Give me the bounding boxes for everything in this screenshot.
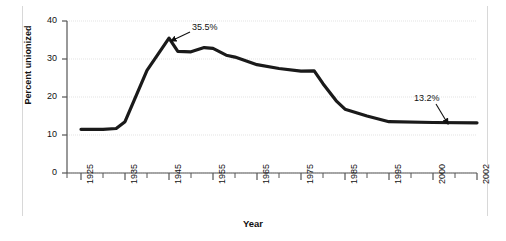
series-line-percent-unionized [81,38,477,129]
annotation-arrows [171,32,448,124]
y-tick-label-20: 20 [33,91,57,101]
x-tick-label-1995: 1995 [393,164,403,184]
x-tick-label-2002: 2002 [481,164,491,184]
x-tick-label-1965: 1965 [261,164,271,184]
x-tick-label-1975: 1975 [305,164,315,184]
x-tick-label-1925: 1925 [85,164,95,184]
y-tick-label-40: 40 [33,15,57,25]
annotation-arrow-35.5% [171,32,190,41]
chart-figure: Percent unionized Year 010203040 1925193… [0,0,506,241]
annotation-label-35.5%: 35.5% [192,22,218,32]
line-chart-plot [0,0,506,241]
x-tick-label-1945: 1945 [173,164,183,184]
annotation-label-13.2%: 13.2% [414,93,440,103]
x-tick-label-1985: 1985 [349,164,359,184]
y-tick-label-0: 0 [33,167,57,177]
x-tick-label-2000: 2000 [437,164,447,184]
y-axis-ticks [62,21,67,173]
x-tick-label-1935: 1935 [129,164,139,184]
data-series-group [81,38,477,129]
x-tick-label-1955: 1955 [217,164,227,184]
y-tick-label-10: 10 [33,129,57,139]
y-tick-label-30: 30 [33,53,57,63]
